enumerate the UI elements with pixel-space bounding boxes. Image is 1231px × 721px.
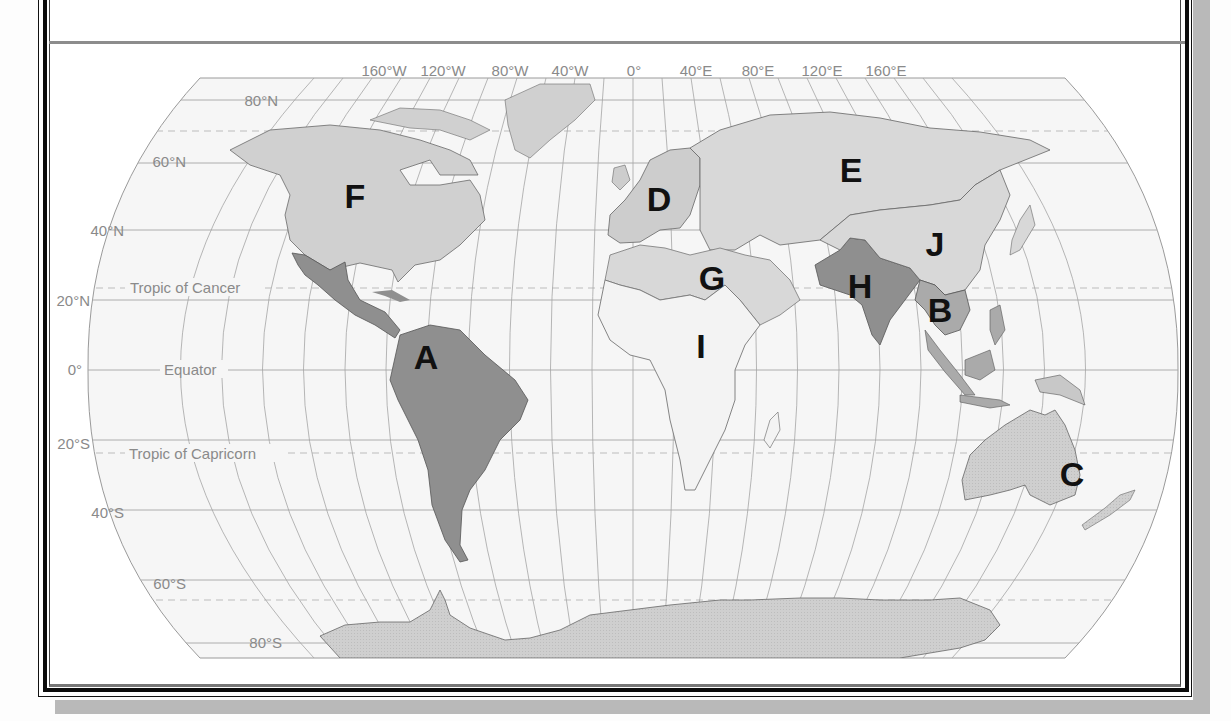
lon-label-40w: 40°W [552,62,590,79]
region-letter-i: I [696,327,705,365]
region-letter-g: G [699,259,725,297]
lat-label-60n: 60°N [152,153,186,170]
lat-label-20s: 20°S [57,435,90,452]
region-letter-j: J [926,225,945,263]
lon-label-40e: 40°E [680,62,713,79]
lon-label-160e: 160°E [865,62,906,79]
equator-label: Equator [164,361,217,378]
world-map: 160°W 120°W 80°W 40°W 0° 40°E 80°E 120°E… [0,0,1231,721]
region-letter-d: D [647,180,672,218]
region-letter-h: H [848,267,873,305]
lon-label-80e: 80°E [742,62,775,79]
region-letter-c: C [1060,455,1085,493]
lat-label-0: 0° [68,361,82,378]
tropic-of-cancer-label: Tropic of Cancer [130,279,240,296]
lat-label-60s: 60°S [153,575,186,592]
lat-label-20n: 20°N [56,292,90,309]
lat-label-80n: 80°N [244,92,278,109]
region-letter-f: F [345,177,366,215]
region-letter-b: B [928,291,953,329]
lat-label-80s: 80°S [249,634,282,651]
lat-label-40s: 40°S [91,504,124,521]
tropic-of-capricorn-label: Tropic of Capricorn [129,445,256,462]
region-letter-a: A [414,338,439,376]
longitude-labels: 160°W 120°W 80°W 40°W 0° 40°E 80°E 120°E… [361,62,906,79]
lon-label-160w: 160°W [361,62,407,79]
lat-label-40n: 40°N [90,222,124,239]
lon-label-0: 0° [627,62,641,79]
lon-label-120e: 120°E [801,62,842,79]
region-letter-e: E [840,151,863,189]
lon-label-120w: 120°W [420,62,466,79]
lon-label-80w: 80°W [492,62,530,79]
